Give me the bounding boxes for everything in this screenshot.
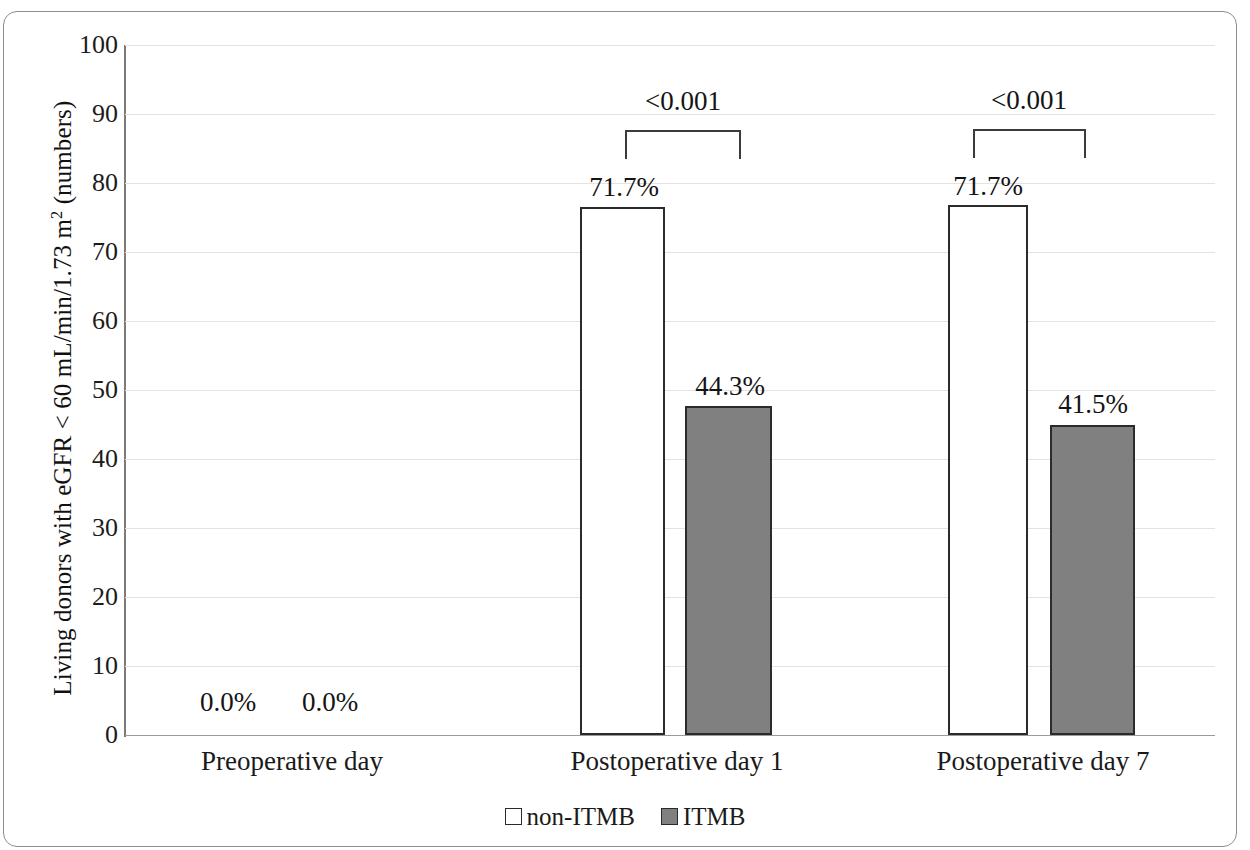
y-axis-ticks: 100 90 80 70 60 50 40 30 20 10 0 — [0, 0, 118, 850]
bar-pod7-itmb — [1050, 425, 1135, 735]
y-tick-50: 50 — [28, 377, 118, 403]
legend-swatch-non-itmb-icon — [505, 808, 522, 825]
legend-label-itmb: ITMB — [683, 804, 746, 829]
y-tick-80: 80 — [28, 170, 118, 196]
gridline-80 — [125, 183, 1215, 184]
x-label-preoperative-day: Preoperative day — [201, 748, 383, 775]
value-preop-itmb: 0.0% — [302, 689, 358, 716]
bar-pod1-itmb — [685, 406, 772, 735]
y-tick-40: 40 — [28, 446, 118, 472]
y-tick-60: 60 — [28, 308, 118, 334]
y-tick-10: 10 — [28, 653, 118, 679]
gridline-50 — [125, 390, 1215, 391]
value-pod1-non-itmb: 71.7% — [589, 174, 659, 201]
pvalue-pod7: <0.001 — [991, 87, 1067, 114]
x-label-postoperative-day-1: Postoperative day 1 — [571, 748, 784, 775]
y-tick-90: 90 — [28, 101, 118, 127]
value-preop-non-itmb: 0.0% — [200, 689, 256, 716]
y-tick-0: 0 — [28, 722, 118, 748]
gridline-70 — [125, 252, 1215, 253]
x-axis-line — [125, 735, 1215, 736]
x-label-postoperative-day-7: Postoperative day 7 — [937, 748, 1150, 775]
value-pod7-non-itmb: 71.7% — [953, 173, 1023, 200]
significance-bracket-pod7 — [973, 129, 1086, 158]
y-tick-100: 100 — [28, 32, 118, 58]
bar-pod1-non-itmb — [580, 207, 665, 735]
legend-item-non-itmb[interactable]: non-ITMB — [505, 804, 635, 829]
gridline-60 — [125, 321, 1215, 322]
chart-figure: Living donors with eGFR < 60 mL/min/1.73… — [0, 0, 1250, 850]
bar-pod7-non-itmb — [948, 205, 1028, 735]
y-tick-70: 70 — [28, 239, 118, 265]
pvalue-pod1: <0.001 — [645, 88, 721, 115]
legend-swatch-itmb-icon — [661, 808, 678, 825]
legend-label-non-itmb: non-ITMB — [527, 804, 635, 829]
gridline-100 — [125, 45, 1215, 46]
value-pod1-itmb: 44.3% — [695, 373, 765, 400]
value-pod7-itmb: 41.5% — [1058, 391, 1128, 418]
y-tick-30: 30 — [28, 515, 118, 541]
y-tick-20: 20 — [28, 584, 118, 610]
legend-item-itmb[interactable]: ITMB — [661, 804, 746, 829]
significance-bracket-pod1 — [625, 130, 741, 159]
chart-legend: non-ITMB ITMB — [0, 804, 1250, 829]
